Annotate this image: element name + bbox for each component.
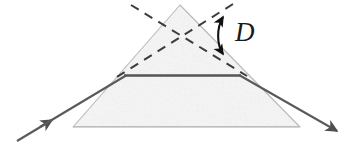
prism-body [60,0,310,140]
optics-diagram-canvas [0,0,356,155]
deviation-angle-label: D [235,19,255,46]
prism-texture [60,0,310,140]
prism-deviation-figure: D [0,0,356,155]
